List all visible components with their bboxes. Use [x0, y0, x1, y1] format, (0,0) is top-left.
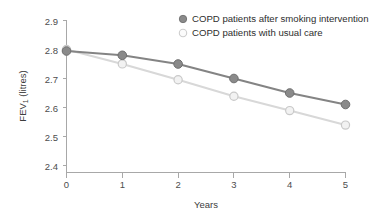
series-line-smoking-intervention	[67, 51, 346, 105]
line-chart: 2.9 2.8 2.7 2.6 2.5 2.4 0 1 2 3 4 5 Year…	[0, 0, 382, 219]
data-point	[341, 121, 349, 129]
x-axis-ticks	[67, 173, 346, 178]
x-tick-label: 5	[343, 179, 348, 190]
filled-circle-icon	[179, 15, 186, 22]
legend-item-smoking-intervention: COPD patients after smoking intervention	[179, 13, 368, 24]
data-point	[174, 60, 183, 69]
data-point	[118, 60, 126, 68]
x-tick-label: 3	[231, 179, 236, 190]
y-tick-label: 2.6	[45, 103, 58, 114]
y-axis-ticks	[63, 21, 67, 166]
y-axis-title: FEV1 (litres)	[17, 70, 29, 121]
svg-text:FEV1 (litres): FEV1 (litres)	[17, 70, 29, 121]
series-markers-smoking-intervention	[62, 47, 350, 109]
open-circle-icon	[179, 29, 186, 36]
legend-item-usual-care: COPD patients with usual care	[179, 27, 322, 38]
chart-figure: 2.9 2.8 2.7 2.6 2.5 2.4 0 1 2 3 4 5 Year…	[0, 0, 382, 219]
y-tick-label: 2.5	[45, 132, 58, 143]
legend-label: COPD patients after smoking intervention	[192, 13, 369, 24]
x-tick-label: 1	[120, 179, 125, 190]
y-tick-label: 2.4	[45, 161, 58, 172]
data-point	[230, 74, 239, 83]
y-axis-title-unit: (litres)	[17, 70, 28, 99]
y-tick-label: 2.7	[45, 74, 58, 85]
data-point	[174, 76, 182, 84]
data-point	[230, 92, 238, 100]
chart-legend: COPD patients after smoking intervention…	[179, 13, 368, 38]
x-tick-label: 0	[64, 179, 69, 190]
x-axis-title: Years	[194, 199, 218, 210]
legend-label: COPD patients with usual care	[192, 27, 323, 38]
data-point	[62, 47, 71, 56]
data-point	[285, 89, 294, 98]
y-axis-title-main: FEV	[17, 103, 28, 122]
y-tick-label: 2.8	[45, 45, 58, 56]
data-point	[286, 107, 294, 115]
x-tick-label: 2	[175, 179, 180, 190]
data-point	[341, 100, 350, 109]
data-point	[118, 51, 127, 60]
x-tick-label: 4	[287, 179, 292, 190]
series-line-usual-care	[67, 50, 346, 126]
y-tick-label: 2.9	[45, 16, 58, 27]
